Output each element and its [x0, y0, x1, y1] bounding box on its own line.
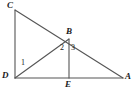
vertex-label-a: A [125, 72, 131, 81]
vertex-label-c: C [7, 1, 13, 10]
vertex-label-e: E [65, 80, 71, 89]
vertex-label-d: D [2, 71, 9, 80]
vertex-label-b: B [66, 27, 72, 36]
geometry-figure: C B D E A 1 2 3 [0, 0, 136, 94]
angle-label-1: 1 [21, 59, 25, 67]
angle-label-3: 3 [71, 44, 75, 52]
angle-label-2: 2 [60, 44, 64, 52]
